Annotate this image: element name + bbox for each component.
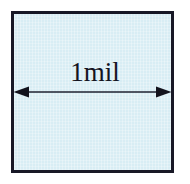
diagram-canvas: 1mil bbox=[0, 0, 190, 184]
dimension-label: 1mil bbox=[0, 56, 190, 88]
square-shape bbox=[11, 11, 174, 173]
fill-texture bbox=[14, 14, 171, 170]
